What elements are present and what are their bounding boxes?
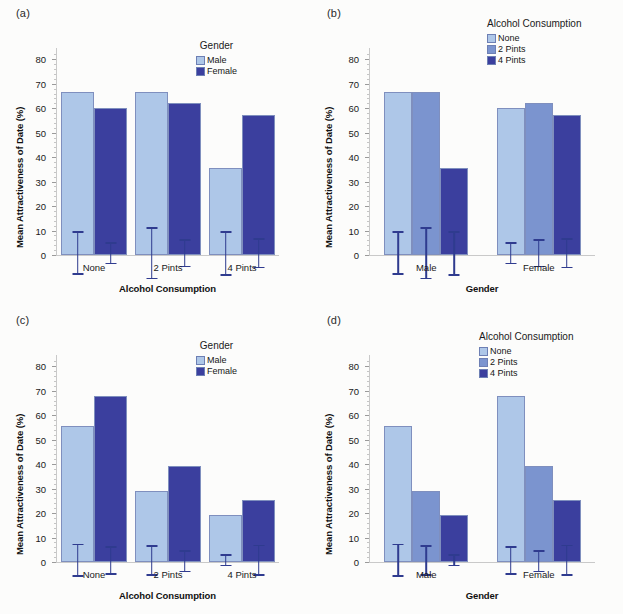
- bar-male[interactable]: [61, 92, 94, 255]
- bar-male[interactable]: [61, 426, 94, 562]
- bar-female[interactable]: [242, 115, 275, 255]
- y-minor-tick: [367, 89, 369, 90]
- bar-groups-a: None2 Pints4 Pints: [57, 48, 279, 255]
- legend-a: Gender MaleFemale: [196, 40, 237, 76]
- y-minor-tick: [367, 177, 369, 178]
- bar-male[interactable]: [135, 491, 168, 562]
- y-minor-tick: [367, 547, 369, 548]
- error-bar-cap-top: [253, 238, 264, 240]
- y-axis-tick: 10: [52, 231, 56, 232]
- legend-title-d: Alcohol Consumption: [479, 331, 574, 342]
- legend-items-a: MaleFemale: [196, 55, 237, 76]
- bar-female[interactable]: [168, 466, 201, 562]
- y-minor-tick: [367, 123, 369, 124]
- bar-2-pints[interactable]: [525, 103, 553, 255]
- y-axis-tick-label: 50: [35, 127, 46, 138]
- bar-2-pints[interactable]: [412, 491, 440, 562]
- error-bar-cap-top: [105, 546, 116, 548]
- bar-none[interactable]: [497, 108, 525, 255]
- y-minor-tick: [54, 542, 56, 543]
- y-axis-tick: 10: [365, 231, 369, 232]
- error-bar-cap-top: [449, 231, 460, 233]
- y-minor-tick: [54, 54, 56, 55]
- y-axis-tick: 50: [52, 133, 56, 134]
- x-axis-title-c: Alcohol Consumption: [56, 590, 279, 601]
- bar-male[interactable]: [209, 168, 242, 255]
- y-minor-tick: [367, 250, 369, 251]
- y-minor-tick: [54, 138, 56, 139]
- bar-2-pints[interactable]: [525, 466, 553, 562]
- y-axis-tick: 0: [52, 255, 56, 256]
- bar-male[interactable]: [135, 92, 168, 255]
- bar-female[interactable]: [168, 103, 201, 255]
- y-minor-tick: [367, 361, 369, 362]
- bar-none[interactable]: [384, 92, 412, 255]
- y-minor-tick: [367, 493, 369, 494]
- y-axis-tick-label: 20: [35, 201, 46, 212]
- legend-item-4-pints[interactable]: 4 Pints: [479, 368, 574, 378]
- bar-4-pints[interactable]: [553, 500, 581, 562]
- legend-label: 2 Pints: [498, 44, 526, 54]
- y-axis-tick-label: 80: [35, 361, 46, 372]
- legend-item-female[interactable]: Female: [196, 366, 237, 376]
- bar-female[interactable]: [94, 396, 127, 562]
- error-bar-cap-top: [72, 544, 83, 546]
- legend-d: Alcohol Consumption None2 Pints4 Pints: [479, 331, 574, 378]
- bar-4-pints[interactable]: [553, 115, 581, 255]
- legend-item-none[interactable]: None: [479, 346, 574, 356]
- y-axis-tick-label: 0: [354, 250, 359, 261]
- legend-item-female[interactable]: Female: [196, 66, 237, 76]
- y-minor-tick: [367, 420, 369, 421]
- bar-group: Male: [384, 355, 468, 562]
- y-axis-tick: 20: [365, 513, 369, 514]
- bar-male[interactable]: [209, 515, 242, 562]
- y-minor-tick: [54, 162, 56, 163]
- x-axis-line-b: [369, 255, 595, 256]
- legend-item-2-pints[interactable]: 2 Pints: [479, 357, 574, 367]
- panel-b: (b) Mean Attractiveness of Date (%) Gend…: [311, 0, 623, 307]
- bar-none[interactable]: [497, 396, 525, 562]
- error-bar-cap-top: [505, 546, 516, 548]
- bar-4-pints[interactable]: [440, 168, 468, 255]
- y-minor-tick: [54, 508, 56, 509]
- panel-c: (c) Mean Attractiveness of Date (%) Alco…: [0, 307, 311, 614]
- y-axis-tick-label: 10: [35, 532, 46, 543]
- y-minor-tick: [54, 552, 56, 553]
- error-bar-cap-bottom: [72, 575, 83, 577]
- bar-groups-b: MaleFemale: [370, 48, 595, 255]
- y-minor-tick: [367, 503, 369, 504]
- y-minor-tick: [367, 435, 369, 436]
- error-bar: [258, 240, 260, 268]
- legend-item-4-pints[interactable]: 4 Pints: [487, 55, 582, 65]
- legend-title-b: Alcohol Consumption: [487, 18, 582, 29]
- legend-item-2-pints[interactable]: 2 Pints: [487, 44, 582, 54]
- bar-wrap: Male: [384, 355, 468, 562]
- y-minor-tick: [54, 118, 56, 119]
- y-minor-tick: [367, 445, 369, 446]
- bar-2-pints[interactable]: [412, 92, 440, 255]
- y-axis-tick: 40: [52, 464, 56, 465]
- legend-item-male[interactable]: Male: [196, 355, 237, 365]
- bar-female[interactable]: [242, 500, 275, 562]
- bar-wrap: Male: [384, 48, 468, 255]
- legend-title-c: Gender: [196, 340, 237, 351]
- error-bar-cap-bottom: [505, 573, 516, 575]
- error-bar-cap-bottom: [505, 263, 516, 265]
- legend-item-male[interactable]: Male: [196, 55, 237, 65]
- legend-swatch-icon: [487, 34, 496, 43]
- bar-female[interactable]: [94, 108, 127, 255]
- y-minor-tick: [367, 523, 369, 524]
- y-axis-tick: 40: [52, 157, 56, 158]
- bar-none[interactable]: [384, 426, 412, 562]
- bar-4-pints[interactable]: [440, 515, 468, 562]
- panel-label-a: (a): [16, 7, 30, 19]
- x-axis-line-d: [369, 562, 595, 563]
- y-axis-tick-label: 10: [348, 532, 359, 543]
- x-axis-tick-label: 2 Pints: [153, 262, 182, 273]
- legend-item-none[interactable]: None: [487, 33, 582, 43]
- error-bar-cap-bottom: [146, 278, 157, 280]
- bar-wrap: 2 Pints: [135, 48, 201, 255]
- y-minor-tick: [54, 396, 56, 397]
- y-minor-tick: [367, 479, 369, 480]
- y-minor-tick: [54, 211, 56, 212]
